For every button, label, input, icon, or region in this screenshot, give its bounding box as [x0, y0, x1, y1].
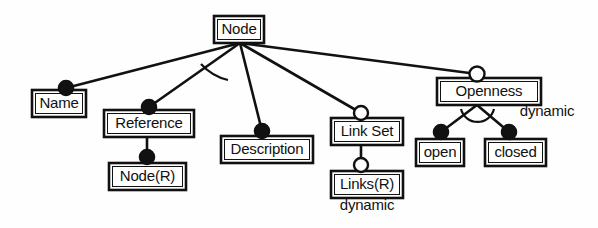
edge-node-to-reference — [149, 43, 240, 107]
filled-circle-marker-closed-icon — [502, 125, 517, 140]
annotation-dynamic-openness: dynamic — [520, 102, 575, 119]
annotation-dynamic-links-r: dynamic — [340, 196, 395, 213]
filled-circle-marker-open-icon — [434, 125, 449, 140]
edge-node-to-link-set — [240, 43, 361, 113]
entity-open[interactable]: open — [416, 139, 464, 166]
entity-open-label: open — [424, 143, 457, 160]
open-circle-marker-link-set-icon — [354, 106, 368, 120]
entity-link-set-label: Link Set — [341, 122, 395, 139]
open-circle-marker-links-r-icon — [354, 158, 368, 172]
filled-circle-marker-node-r-icon — [140, 150, 155, 165]
filled-circle-marker-name-icon — [59, 81, 74, 96]
entity-node-r[interactable]: Node(R) — [109, 163, 186, 190]
entity-closed[interactable]: closed — [485, 139, 546, 166]
entity-reference-label: Reference — [115, 114, 182, 131]
entity-closed-label: closed — [494, 143, 536, 160]
entity-node-label: Node — [221, 20, 256, 37]
entity-description-label: Description — [231, 140, 304, 157]
entity-links-r[interactable]: Links(R) — [331, 171, 403, 198]
entity-name[interactable]: Name — [32, 90, 86, 117]
edge-node-to-description — [240, 43, 262, 131]
node-schema-diagram: Node Name Reference Node(R) Description — [0, 0, 598, 228]
filled-circle-marker-reference-icon — [142, 100, 157, 115]
filled-circle-marker-description-icon — [255, 124, 270, 139]
open-circle-marker-openness-icon — [470, 67, 485, 82]
entity-openness-label: Openness — [456, 82, 523, 99]
entity-node-r-label: Node(R) — [120, 167, 175, 184]
entity-link-set[interactable]: Link Set — [331, 118, 403, 145]
entity-description[interactable]: Description — [221, 136, 313, 163]
entity-node[interactable]: Node — [214, 16, 264, 43]
diagram-canvas: Node Name Reference Node(R) Description — [0, 0, 598, 228]
entity-openness[interactable]: Openness — [437, 78, 541, 105]
entity-name-label: Name — [39, 94, 78, 111]
edge-node-to-openness — [240, 43, 477, 74]
entity-links-r-label: Links(R) — [340, 175, 394, 192]
edge-node-to-name — [66, 43, 240, 88]
